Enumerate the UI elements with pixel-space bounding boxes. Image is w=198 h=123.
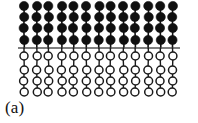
- filled-circle-node: [144, 23, 153, 32]
- open-circle-node: [131, 52, 139, 60]
- filled-circle-node: [130, 12, 139, 21]
- filled-circle-node: [168, 12, 177, 21]
- filled-circle-node: [156, 12, 165, 21]
- open-circle-node: [144, 66, 152, 74]
- open-circle-node: [83, 88, 91, 96]
- open-circle-node: [95, 77, 103, 85]
- figure-caption-label: (a): [5, 98, 24, 118]
- filled-circle-node: [69, 1, 78, 10]
- filled-circle-node: [168, 23, 177, 32]
- filled-circle-node: [106, 1, 115, 10]
- open-circle-node: [120, 88, 128, 96]
- filled-circle-node: [156, 1, 165, 10]
- filled-circle-node: [82, 23, 91, 32]
- open-circle-node: [168, 88, 176, 96]
- open-circle-node: [95, 88, 103, 96]
- lower-layer-group: [20, 48, 177, 96]
- open-circle-node: [20, 52, 28, 60]
- filled-circle-node: [32, 12, 41, 21]
- open-circle-node: [44, 88, 52, 96]
- open-circle-node: [120, 66, 128, 74]
- open-circle-node: [33, 66, 41, 74]
- open-circle-node: [33, 52, 41, 60]
- open-circle-node: [156, 77, 164, 85]
- open-circle-node: [20, 88, 28, 96]
- filled-circle-node: [69, 12, 78, 21]
- open-circle-node: [57, 66, 65, 74]
- filled-circle-node: [68, 23, 77, 32]
- filled-circle-node: [119, 23, 128, 32]
- open-circle-node: [45, 66, 53, 74]
- open-circle-node: [169, 66, 177, 74]
- open-circle-node: [107, 88, 115, 96]
- filled-circle-node: [82, 35, 91, 44]
- filled-circle-node: [20, 12, 29, 21]
- upper-layer-group: [19, 1, 177, 48]
- filled-circle-node: [44, 12, 53, 21]
- filled-circle-node: [33, 23, 42, 32]
- open-circle-node: [145, 88, 153, 96]
- filled-circle-node: [57, 23, 66, 32]
- open-circle-node: [70, 66, 78, 74]
- filled-circle-node: [118, 1, 127, 10]
- filled-circle-node: [155, 23, 164, 32]
- open-circle-node: [157, 88, 165, 96]
- filled-circle-node: [130, 23, 139, 32]
- filled-circle-node: [69, 35, 78, 44]
- open-circle-node: [131, 88, 139, 96]
- filled-circle-node: [131, 35, 140, 44]
- filled-circle-node: [119, 12, 128, 21]
- filled-circle-node: [94, 35, 103, 44]
- open-circle-node: [45, 77, 53, 85]
- filled-circle-node: [44, 1, 53, 10]
- open-circle-node: [145, 52, 153, 60]
- filled-circle-node: [144, 35, 153, 44]
- open-circle-node: [106, 52, 114, 60]
- open-circle-node: [132, 77, 140, 85]
- open-circle-node: [44, 52, 52, 60]
- open-circle-node: [69, 77, 77, 85]
- bilayer-diagram: [0, 0, 198, 123]
- filled-circle-node: [168, 1, 177, 10]
- open-circle-node: [83, 66, 91, 74]
- open-circle-node: [95, 66, 103, 74]
- open-circle-node: [95, 52, 103, 60]
- open-circle-node: [20, 66, 28, 74]
- open-circle-node: [106, 66, 114, 74]
- filled-circle-node: [20, 35, 29, 44]
- filled-circle-node: [144, 12, 153, 21]
- filled-circle-node: [57, 35, 66, 44]
- open-circle-node: [169, 77, 177, 85]
- filled-circle-node: [19, 1, 28, 10]
- filled-circle-node: [156, 35, 165, 44]
- filled-circle-node: [106, 23, 115, 32]
- filled-circle-node: [81, 1, 90, 10]
- filled-circle-node: [32, 35, 41, 44]
- open-circle-node: [58, 88, 66, 96]
- figure-container: (a): [0, 0, 198, 123]
- open-circle-node: [157, 66, 165, 74]
- filled-circle-node: [119, 35, 128, 44]
- filled-circle-node: [81, 12, 90, 21]
- open-circle-node: [69, 88, 77, 96]
- filled-circle-node: [33, 1, 42, 10]
- filled-circle-node: [94, 23, 103, 32]
- filled-circle-node: [168, 35, 177, 44]
- filled-circle-node: [106, 35, 115, 44]
- open-circle-node: [33, 77, 41, 85]
- filled-circle-node: [95, 1, 104, 10]
- filled-circle-node: [57, 12, 66, 21]
- filled-circle-node: [106, 12, 115, 21]
- filled-circle-node: [95, 12, 104, 21]
- open-circle-node: [131, 66, 139, 74]
- open-circle-node: [20, 77, 28, 85]
- filled-circle-node: [144, 1, 153, 10]
- open-circle-node: [107, 77, 115, 85]
- open-circle-node: [145, 77, 153, 85]
- filled-circle-node: [131, 1, 140, 10]
- filled-circle-node: [58, 1, 67, 10]
- open-circle-node: [119, 77, 127, 85]
- open-circle-node: [169, 52, 177, 60]
- open-circle-node: [33, 88, 41, 96]
- open-circle-node: [82, 77, 90, 85]
